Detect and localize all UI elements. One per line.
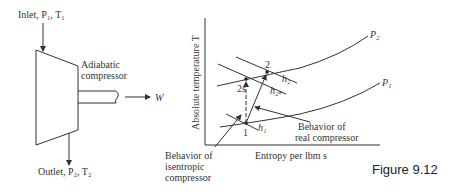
isobar-p1-label: P₁ xyxy=(381,77,392,88)
h1-label: h₁ xyxy=(258,122,266,133)
h2s-label: h₂ₛ xyxy=(270,85,282,96)
isentropic-annotation-line3: compressor xyxy=(165,172,212,183)
state-point-1-label: 1 xyxy=(243,127,248,138)
work-label: W xyxy=(155,92,165,103)
isobar-p2-label: P₂ xyxy=(369,29,380,40)
figure-caption: Figure 9.12 xyxy=(372,162,438,177)
state-point-2s xyxy=(244,77,248,81)
compressor-body xyxy=(36,50,78,145)
isobar-p2 xyxy=(217,36,368,86)
y-axis-label: Absolute temperature T xyxy=(190,35,201,130)
ts-diagram: Absolute temperature T Entropy per lbm s… xyxy=(165,18,392,183)
real-annotation-line2: real compressor xyxy=(295,132,359,143)
compressor-name-line2: compressor xyxy=(81,70,128,81)
isentropic-annotation-line1: Behavior of xyxy=(165,150,213,161)
figure-canvas: Inlet, P₁, T₁ Adiabatic compressor W Out… xyxy=(0,0,450,194)
isentropic-annotation-line2: isentropic xyxy=(165,161,205,172)
state-point-2 xyxy=(265,70,269,74)
state-point-2-label: 2 xyxy=(265,59,270,70)
x-axis-label: Entropy per lbm s xyxy=(255,150,327,161)
compressor-schematic: Inlet, P₁, T₁ Adiabatic compressor W Out… xyxy=(18,9,165,177)
inlet-label: Inlet, P₁, T₁ xyxy=(18,9,65,20)
real-annotation-arrow xyxy=(255,107,310,122)
shaft-break xyxy=(115,91,118,103)
real-annotation-line1: Behavior of xyxy=(298,121,346,132)
isentropic-annotation-arrow xyxy=(215,115,241,147)
h2-label: h₂ xyxy=(282,73,291,84)
state-point-2s-label: 2s xyxy=(237,83,246,94)
real-process-line xyxy=(246,75,266,123)
compressor-name-line1: Adiabatic xyxy=(81,59,120,70)
outlet-label: Outlet, P₂, T₂ xyxy=(38,166,91,177)
